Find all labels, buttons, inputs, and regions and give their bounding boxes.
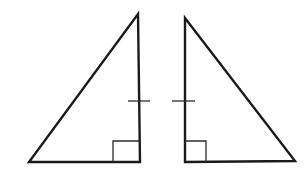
right-triangle <box>172 18 295 162</box>
left-triangle <box>29 14 150 162</box>
right-right-angle-marker <box>185 141 206 162</box>
left-right-angle-marker <box>113 141 140 162</box>
left-triangle-outline <box>29 14 140 162</box>
congruent-triangles-diagram <box>0 0 308 179</box>
